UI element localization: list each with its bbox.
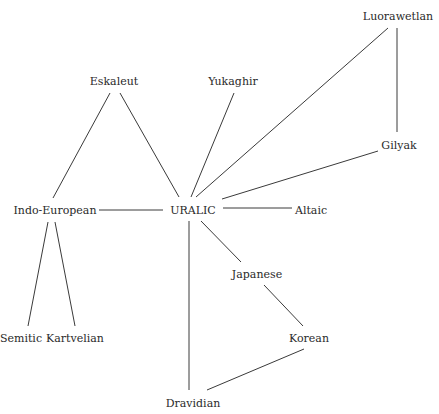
edge-korean-dravidian	[207, 349, 304, 390]
edge-yukaghir-uralic	[191, 93, 234, 197]
edge-gilyak-uralic	[222, 151, 378, 199]
edge-luorawetlan-uralic	[196, 28, 388, 197]
node-altaic: Altaic	[295, 205, 327, 216]
edge-indo-european-kartvelian	[55, 222, 75, 326]
node-gilyak: Gilyak	[381, 140, 416, 151]
node-yukaghir: Yukaghir	[208, 76, 258, 87]
node-luorawetlan: Luorawetlan	[363, 11, 433, 22]
node-dravidian: Dravidian	[166, 398, 221, 409]
node-semitic: Semitic	[0, 333, 42, 344]
edge-eskaleut-uralic	[120, 93, 179, 197]
node-uralic: URALIC	[170, 205, 216, 216]
language-relationship-diagram: LuorawetlanEskaleutYukaghirGilyakIndo-Eu…	[0, 0, 439, 414]
node-korean: Korean	[289, 333, 329, 344]
edge-indo-european-semitic	[28, 222, 48, 326]
node-indo-european: Indo-European	[14, 205, 97, 216]
edge-uralic-japanese	[201, 221, 241, 262]
edge-japanese-korean	[264, 285, 303, 326]
node-kartvelian: Kartvelian	[46, 333, 104, 344]
node-eskaleut: Eskaleut	[90, 76, 138, 87]
edge-eskaleut-indo-european	[53, 93, 110, 198]
node-japanese: Japanese	[232, 269, 282, 280]
